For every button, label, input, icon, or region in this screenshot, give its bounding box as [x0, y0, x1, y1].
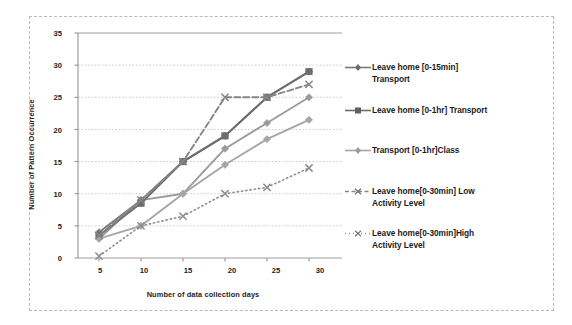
data-series-3 [95, 81, 312, 239]
legend-marker-icon [345, 186, 371, 197]
legend-marker-icon [345, 145, 371, 156]
x-axis-title: Number of data collection days [78, 290, 328, 299]
y-tick-25: 25 [40, 93, 62, 102]
x-tick-25: 25 [265, 266, 287, 275]
legend-label-4: Leave home[0-30min]High Activity Level [372, 228, 474, 251]
y-tick-15: 15 [40, 158, 62, 167]
legend-label-3: Leave home[0-30min] Low Activity Level [372, 186, 475, 209]
legend-label-0: Leave home [0-15min] Transport [372, 62, 458, 85]
y-tick-0: 0 [40, 254, 62, 263]
x-tick-20: 20 [221, 266, 243, 275]
legend-item-4[interactable]: Leave home[0-30min]High Activity Level [345, 228, 474, 251]
x-tick-30: 30 [309, 266, 331, 275]
legend-item-1[interactable]: Leave home [0-1hr] Transport [345, 105, 487, 117]
legend-item-2[interactable]: Transport [0-1hr]Class [345, 145, 459, 157]
legend-marker-icon [345, 105, 371, 116]
legend-marker-icon [345, 228, 371, 239]
y-tick-30: 30 [40, 61, 62, 70]
plot-area [0, 0, 572, 325]
x-tick-15: 15 [177, 266, 199, 275]
y-axis-title: Number of Pattern Occurrence [27, 80, 36, 230]
y-tick-35: 35 [40, 29, 62, 38]
x-tick-10: 10 [133, 266, 155, 275]
y-tick-10: 10 [40, 190, 62, 199]
legend-item-3[interactable]: Leave home[0-30min] Low Activity Level [345, 186, 475, 209]
data-series-extra-0 [95, 94, 312, 243]
x-tick-5: 5 [89, 266, 111, 275]
legend-item-0[interactable]: Leave home [0-15min] Transport [345, 62, 458, 85]
legend-label-2: Transport [0-1hr]Class [372, 145, 459, 157]
legend-marker-icon [345, 62, 371, 73]
y-tick-5: 5 [40, 222, 62, 231]
y-tick-20: 20 [40, 126, 62, 135]
legend-label-1: Leave home [0-1hr] Transport [372, 105, 487, 117]
chart-figure: 35 30 25 20 15 10 5 0 5 10 15 20 25 30 N… [0, 0, 572, 325]
data-series-2 [95, 116, 312, 242]
